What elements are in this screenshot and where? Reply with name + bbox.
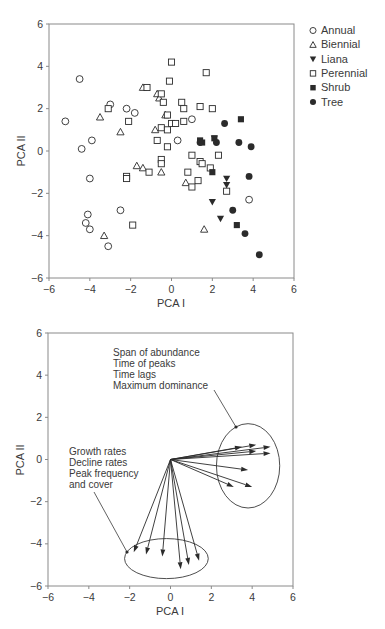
leader-line-lower bbox=[94, 492, 127, 552]
data-point bbox=[154, 137, 160, 143]
series-biennial bbox=[96, 84, 207, 239]
data-point bbox=[256, 251, 263, 258]
data-point bbox=[238, 116, 244, 122]
data-point bbox=[168, 59, 174, 65]
data-point bbox=[185, 169, 191, 175]
data-point bbox=[164, 144, 170, 150]
x-tick-label: −2 bbox=[124, 591, 136, 603]
x-tick-label: −6 bbox=[43, 283, 55, 295]
data-point bbox=[133, 162, 140, 168]
data-point bbox=[201, 226, 208, 232]
data-point bbox=[188, 116, 195, 123]
data-point bbox=[221, 120, 228, 127]
pca-scatter-chart: −6−4−20246 −6−4−20246 PCA I PCA II Annua… bbox=[0, 0, 385, 320]
annotation-lower-line-3: Peak frequency bbox=[69, 468, 139, 479]
loading-arrow bbox=[171, 445, 271, 459]
y-tick-label: −2 bbox=[30, 495, 42, 507]
data-point bbox=[173, 120, 179, 126]
loading-arrow bbox=[171, 460, 253, 487]
data-point bbox=[158, 125, 164, 131]
legend-item-perennial: Perennial bbox=[310, 67, 367, 79]
data-point bbox=[96, 114, 103, 120]
ellipse-timing-group bbox=[216, 424, 279, 508]
legend-item-annual: Annual bbox=[310, 24, 355, 36]
x-tick-label: 0 bbox=[168, 591, 174, 603]
y-tick-label: 4 bbox=[37, 60, 43, 72]
legend-label: Annual bbox=[321, 24, 355, 36]
annotation-upper-line-4: Maximum dominance bbox=[113, 380, 208, 391]
x-tick-label: 6 bbox=[290, 591, 296, 603]
legend-label: Shrub bbox=[321, 81, 350, 93]
loading-arrow bbox=[171, 444, 257, 460]
data-point bbox=[117, 207, 124, 214]
y-tick-label: −6 bbox=[30, 580, 42, 592]
data-point bbox=[160, 99, 166, 105]
open-circle-icon bbox=[310, 27, 316, 33]
data-point bbox=[182, 179, 189, 185]
x-tick-label: 6 bbox=[291, 283, 297, 295]
annotation-lower-line-1: Growth rates bbox=[69, 446, 126, 457]
data-point bbox=[197, 139, 204, 146]
y-tick-label: 6 bbox=[36, 327, 42, 339]
legend-label: Perennial bbox=[321, 67, 367, 79]
arrowhead-icon bbox=[178, 562, 183, 569]
arrowhead-icon bbox=[185, 558, 190, 565]
data-point bbox=[130, 222, 136, 228]
x-axis-ticks: −6−4−20246 bbox=[43, 278, 297, 295]
filled-circle-icon bbox=[310, 99, 316, 105]
data-point bbox=[117, 128, 124, 134]
data-point bbox=[189, 184, 195, 190]
x-axis-title: PCA I bbox=[156, 605, 184, 617]
data-point bbox=[209, 199, 216, 205]
filled-down-triangle-icon bbox=[310, 57, 316, 63]
data-point bbox=[164, 112, 170, 118]
data-point bbox=[197, 103, 203, 109]
data-point bbox=[131, 109, 138, 116]
arrowhead-icon bbox=[245, 482, 252, 487]
data-point bbox=[215, 152, 221, 158]
data-point bbox=[86, 226, 93, 233]
x-tick-label: −6 bbox=[42, 591, 54, 603]
data-point bbox=[217, 216, 224, 222]
scatter-points bbox=[62, 59, 263, 258]
data-point bbox=[234, 222, 240, 228]
data-point bbox=[78, 145, 85, 152]
data-point bbox=[105, 106, 111, 112]
y-axis-ticks: −6−4−20246 bbox=[31, 18, 49, 284]
group-ellipses bbox=[125, 424, 280, 579]
arrowhead-icon bbox=[235, 446, 242, 451]
x-tick-label: −2 bbox=[125, 283, 137, 295]
data-point bbox=[158, 161, 164, 167]
arrowhead-icon bbox=[249, 444, 256, 449]
arrowhead-icon bbox=[195, 553, 200, 560]
data-point bbox=[152, 126, 159, 132]
x-tick-label: 2 bbox=[209, 283, 215, 295]
data-point bbox=[146, 169, 152, 175]
data-point bbox=[101, 232, 108, 238]
arrowhead-icon bbox=[134, 545, 139, 552]
loading-arrow bbox=[171, 449, 257, 459]
series-liana bbox=[209, 135, 230, 222]
data-point bbox=[126, 118, 132, 124]
legend-item-shrub: Shrub bbox=[310, 81, 350, 93]
data-point bbox=[179, 99, 185, 105]
data-point bbox=[195, 178, 201, 184]
loading-arrow bbox=[145, 460, 170, 555]
arrowhead-icon bbox=[241, 467, 248, 472]
loading-arrow bbox=[134, 460, 171, 553]
y-tick-label: −2 bbox=[31, 187, 43, 199]
loading-arrow bbox=[171, 451, 271, 459]
annotation-upper-line-3: Time lags bbox=[113, 369, 156, 380]
arrowhead-icon bbox=[249, 449, 256, 454]
data-point bbox=[248, 143, 255, 150]
data-point bbox=[209, 106, 215, 112]
data-point bbox=[229, 207, 236, 214]
data-point bbox=[174, 137, 181, 144]
data-point bbox=[223, 176, 230, 182]
data-point bbox=[213, 139, 220, 146]
loading-arrow bbox=[171, 460, 200, 561]
data-point bbox=[84, 211, 91, 218]
loading-vectors bbox=[134, 444, 271, 570]
data-point bbox=[199, 161, 205, 167]
legend-item-tree: Tree bbox=[310, 96, 343, 108]
